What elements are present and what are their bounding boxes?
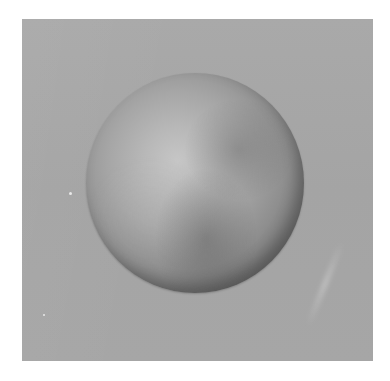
speck <box>43 314 45 316</box>
image-canvas <box>0 0 390 381</box>
sphere <box>86 73 304 293</box>
light-streak <box>305 241 344 327</box>
sphere-texture <box>86 73 304 293</box>
speck <box>69 192 72 195</box>
